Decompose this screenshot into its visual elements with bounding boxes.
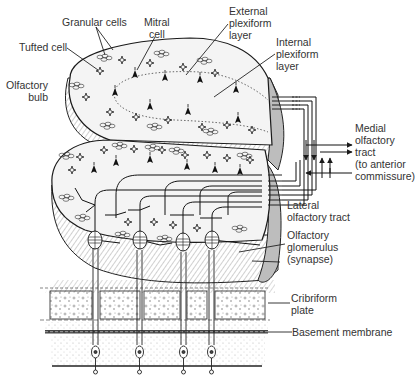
label-tufted-cell: Tufted cell <box>19 41 67 53</box>
label-lateral-olfactory-tract: Lateral olfactory tract <box>287 199 350 223</box>
label-internal-plexiform-layer: Internal plexiform layer <box>276 36 319 72</box>
olfactory-tract-pathways <box>282 97 352 205</box>
lower-bulb-section <box>52 140 282 283</box>
label-granular-cells: Granular cells <box>62 16 127 28</box>
mucosa-layers <box>40 280 275 366</box>
olfactory-bulb-diagram: Granular cells Mitral cell Tufted cell O… <box>0 0 418 379</box>
label-external-plexiform-layer: External plexiform layer <box>229 5 272 41</box>
label-medial-olfactory-tract: Medial olfactory tract (to anterior comm… <box>355 122 415 182</box>
diagram-canvas <box>0 0 418 379</box>
label-mitral-cell: Mitral cell <box>144 16 170 40</box>
cribriform-plate <box>50 291 265 319</box>
basement-membrane <box>45 330 268 334</box>
label-basement-membrane: Basement membrane <box>292 326 392 338</box>
label-cribriform-plate: Cribriform plate <box>291 292 337 316</box>
label-olfactory-glomerulus: Olfactory glomerulus (synapse) <box>287 229 338 265</box>
label-olfactory-bulb: Olfactory bulb <box>6 79 48 103</box>
